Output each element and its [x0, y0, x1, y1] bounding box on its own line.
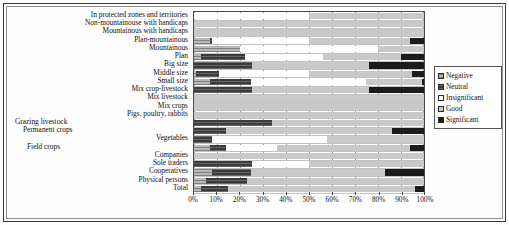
bar-segment-significant	[410, 145, 424, 151]
bar-row	[194, 112, 424, 118]
bar-segment-good	[194, 21, 424, 27]
bar-row	[194, 161, 424, 167]
bar-segment-neutral	[201, 54, 245, 60]
bar-segment-good	[309, 161, 424, 167]
category-label: Vegetables	[156, 134, 188, 142]
bar-segment-neutral	[194, 62, 252, 68]
category-label: Total	[173, 184, 188, 192]
bar-segment-negative	[194, 79, 210, 85]
legend-item-insignificant[interactable]: Insignificant	[438, 92, 499, 103]
legend-label: Good	[446, 104, 462, 113]
bar-segment-negative	[194, 178, 206, 184]
bar-segment-neutral	[206, 178, 247, 184]
bar-segment-significant	[369, 87, 424, 93]
bar-segment-neutral	[210, 145, 226, 151]
bar-row	[194, 120, 424, 126]
bar-segment-significant	[401, 54, 424, 60]
legend-label: Significant	[446, 115, 478, 124]
bar-segment-good	[327, 136, 424, 142]
bar-segment-good	[323, 54, 401, 60]
bar-segment-neutral	[212, 169, 251, 175]
bar-segment-neutral	[194, 87, 252, 93]
bar-row	[194, 46, 424, 52]
axis-tick-label: 60%	[326, 195, 339, 205]
bar-segment-insignificant	[212, 136, 327, 142]
axis-tick-label: 90%	[395, 195, 408, 205]
legend-item-neutral[interactable]: Neutral	[438, 81, 499, 92]
bar-segment-neutral	[196, 71, 219, 77]
bar-segment-significant	[392, 128, 424, 134]
bar-segment-neutral	[210, 79, 251, 85]
bar-row	[194, 29, 424, 35]
category-label: Pigs, poultry, rabbits	[127, 110, 188, 118]
axis-tick-label: 30%	[256, 195, 269, 205]
legend-label: Neutral	[446, 82, 468, 91]
legend-item-significant[interactable]: Significant	[438, 114, 499, 125]
bar-segment-good	[251, 169, 384, 175]
bar-segment-significant	[369, 62, 424, 68]
bar-segment-neutral	[194, 120, 272, 126]
bar-segment-good	[247, 178, 424, 184]
bar-row	[194, 128, 424, 134]
category-label: Permanent crops	[23, 126, 72, 134]
bar-segment-good	[277, 145, 410, 151]
bar-segment-negative	[194, 46, 240, 52]
bar-segment-significant	[385, 169, 424, 175]
bar-segment-good	[194, 112, 424, 118]
legend-label: Insignificant	[446, 93, 483, 102]
legend-swatch-icon	[438, 106, 444, 112]
bar-row	[194, 103, 424, 109]
bar-segment-good	[194, 103, 424, 109]
legend-item-good[interactable]: Good	[438, 103, 499, 114]
bar-row	[194, 13, 424, 19]
axis-tick-label: 10%	[210, 195, 223, 205]
bar-segment-negative	[194, 38, 210, 44]
bar-segment-insignificant	[252, 161, 310, 167]
bar-row	[194, 178, 424, 184]
bar-segment-good	[309, 13, 424, 19]
bar-segment-significant	[412, 71, 424, 77]
bar-row	[194, 21, 424, 27]
legend-label: Negative	[446, 71, 473, 80]
bar-segment-neutral	[194, 136, 212, 142]
axis-tick-label: 50%	[302, 195, 315, 205]
bar-segment-significant	[422, 79, 424, 85]
bar-row	[194, 38, 424, 44]
bar-row	[194, 87, 424, 93]
bar-row	[194, 145, 424, 151]
bar-segment-good	[226, 128, 392, 134]
bar-segment-neutral	[194, 161, 252, 167]
chart-legend: NegativeNeutralInsignificantGoodSignific…	[434, 66, 502, 129]
bar-segment-insignificant	[245, 54, 323, 60]
bar-segment-significant	[410, 38, 424, 44]
bar-row	[194, 136, 424, 142]
axis-tick-label: 20%	[233, 195, 246, 205]
bar-segment-good	[366, 79, 421, 85]
plot-area	[193, 11, 425, 192]
axis-tick-label: 0%	[188, 195, 198, 205]
bar-segment-insignificant	[251, 79, 366, 85]
bar-segment-good	[378, 46, 424, 52]
bar-row	[194, 153, 424, 159]
bar-segment-good	[272, 120, 424, 126]
legend-swatch-icon	[438, 84, 444, 90]
bar-segment-insignificant	[219, 71, 309, 77]
axis-tick-label: 70%	[349, 195, 362, 205]
bar-segment-insignificant	[194, 13, 309, 19]
bar-row	[194, 54, 424, 60]
bar-segment-neutral	[194, 128, 226, 134]
bar-row	[194, 71, 424, 77]
bar-segment-good	[194, 153, 424, 159]
legend-swatch-icon	[438, 73, 444, 79]
value-axis: 0%10%20%30%40%50%60%70%80%90%100%	[193, 192, 425, 208]
bar-segment-good	[309, 71, 413, 77]
bar-row	[194, 169, 424, 175]
bar-segment-insignificant	[212, 38, 309, 44]
legend-item-negative[interactable]: Negative	[438, 70, 499, 81]
bar-segment-good	[194, 95, 424, 101]
axis-tick-label: 40%	[279, 195, 292, 205]
bar-segment-good	[194, 29, 424, 35]
bar-segment-good	[252, 87, 369, 93]
chart-figure: In protected zones and territoriesNon-mo…	[0, 0, 509, 225]
bar-segment-negative	[194, 145, 210, 151]
